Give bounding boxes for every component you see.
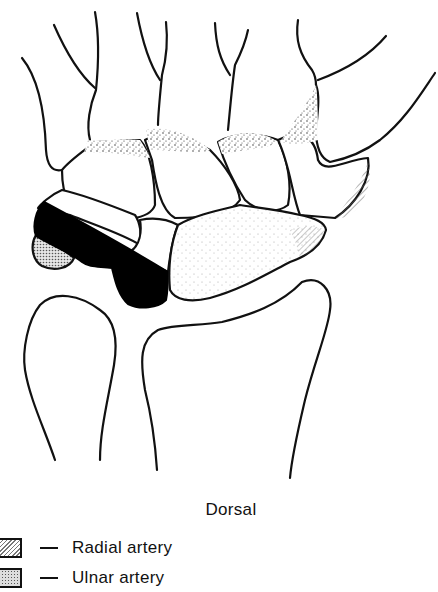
stipple-trapezium-top	[280, 85, 318, 144]
ulna	[24, 296, 115, 460]
legend-label-radial: Radial artery	[72, 538, 172, 558]
figure-caption: Dorsal	[0, 500, 438, 520]
metacarpal-2	[228, 30, 248, 130]
dot-screen-swatch-icon	[0, 568, 22, 588]
diagonal-hatch-swatch-icon	[0, 538, 22, 558]
thumb-metacarpal	[316, 73, 435, 162]
metacarpal-4	[88, 12, 98, 140]
stipple-capitate-top	[146, 129, 210, 153]
metacarpal-3	[158, 22, 167, 125]
metacarpal-3-left	[137, 13, 160, 80]
legend-item-ulnar: Ulnar artery	[0, 563, 172, 592]
metacarpal-4-left	[54, 25, 95, 88]
metacarpal-1-left	[297, 20, 316, 85]
dash-separator	[40, 577, 58, 579]
legend-label-ulnar: Ulnar artery	[72, 568, 164, 588]
legend-item-radial: Radial artery	[0, 533, 172, 563]
legend: Radial artery Ulnar artery	[0, 533, 172, 592]
radius	[142, 280, 330, 478]
dash-separator	[40, 547, 58, 549]
metacarpal-1	[318, 36, 386, 80]
metacarpal-5	[22, 58, 62, 170]
metacarpal-2-left	[215, 23, 230, 75]
